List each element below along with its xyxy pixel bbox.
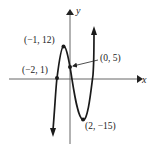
left-point-label: (−2, 1) [22, 66, 48, 76]
x-axis-label: x [142, 75, 146, 85]
point-left [55, 76, 59, 80]
point-y-intercept [68, 65, 72, 69]
point-max [62, 45, 66, 49]
max-point-label: (−1, 12) [24, 36, 55, 46]
curve-arrow-up-icon [91, 26, 97, 35]
y-intercept-label: (0, 5) [100, 54, 121, 64]
min-point-label: (2, −15) [85, 122, 116, 132]
curve-path [53, 32, 94, 130]
curve-arrow-down-icon [50, 128, 56, 137]
y-axis-label: y [76, 6, 80, 16]
